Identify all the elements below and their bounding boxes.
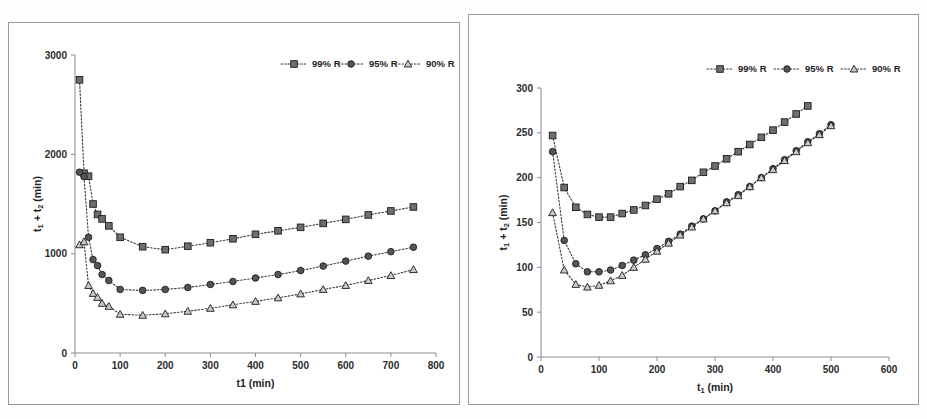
circle-marker <box>320 263 327 270</box>
legend-sample <box>774 66 800 73</box>
legend-sample <box>338 61 364 68</box>
square-marker <box>573 204 580 211</box>
y-tick-label: 50 <box>522 307 534 318</box>
y-tick-label: 150 <box>516 217 533 228</box>
square-marker <box>99 216 106 223</box>
square-marker <box>162 246 169 253</box>
x-tick-label: 100 <box>112 360 129 371</box>
square-marker <box>689 177 696 184</box>
x-tick-label: 200 <box>649 364 666 375</box>
square-marker <box>207 239 214 246</box>
square-marker <box>770 127 777 134</box>
series-line <box>553 106 808 217</box>
square-marker <box>607 214 614 221</box>
y-axis-title: t1 + t2 (min) <box>31 176 45 232</box>
square-marker <box>90 201 97 208</box>
circle-marker <box>275 271 282 278</box>
triangle-marker <box>549 209 557 216</box>
square-marker <box>297 224 304 231</box>
circle-marker <box>99 271 106 278</box>
square-marker <box>631 207 638 214</box>
x-tick-label: 600 <box>337 360 354 371</box>
square-marker <box>388 208 395 215</box>
y-axis-title: t1 + t2 (min) <box>497 195 511 251</box>
circle-marker <box>584 269 591 276</box>
y-tick-label: 300 <box>516 83 533 94</box>
x-tick-label: 300 <box>202 360 219 371</box>
x-tick-label: 0 <box>72 360 78 371</box>
triangle-marker <box>630 264 638 271</box>
square-marker <box>365 212 372 219</box>
legend-sample <box>395 60 421 67</box>
series-line <box>553 125 831 272</box>
legend: 99% R95% R90% R <box>281 58 455 69</box>
circle-marker <box>117 286 124 293</box>
series-line <box>80 80 414 250</box>
left-chart-panel: 01002003004005006007008000100020003000t1… <box>8 22 460 405</box>
legend-label: 95% R <box>805 63 834 74</box>
x-tick-label: 400 <box>247 360 264 371</box>
circle-marker <box>90 256 97 263</box>
x-tick-label: 400 <box>765 364 782 375</box>
circle-marker <box>207 281 214 288</box>
square-marker <box>252 231 259 238</box>
square-marker <box>712 163 719 170</box>
square-marker <box>642 202 649 209</box>
square-marker <box>747 141 754 148</box>
x-tick-label: 500 <box>292 360 309 371</box>
circle-marker <box>619 262 626 269</box>
square-marker <box>185 243 192 250</box>
series-line <box>80 172 414 290</box>
triangle-marker <box>607 277 615 284</box>
circle-marker <box>784 66 791 73</box>
y-tick-label: 250 <box>516 127 533 138</box>
triangle-marker <box>560 266 568 273</box>
x-tick-label: 200 <box>157 360 174 371</box>
legend-label: 99% R <box>312 58 341 69</box>
right-chart-panel: 0100200300400500600050100150200250300t1 … <box>468 14 919 405</box>
triangle-marker <box>595 281 603 288</box>
circle-marker <box>410 244 417 251</box>
figure-root: 01002003004005006007008000100020003000t1… <box>0 0 927 419</box>
square-marker <box>677 183 684 190</box>
x-tick-label: 600 <box>881 364 898 375</box>
square-marker <box>275 228 282 235</box>
square-marker <box>735 148 742 155</box>
square-marker <box>805 103 812 110</box>
square-marker <box>654 196 661 203</box>
square-marker <box>549 132 556 139</box>
circle-marker <box>185 284 192 291</box>
circle-marker <box>94 262 101 269</box>
y-tick-label: 2000 <box>45 149 68 160</box>
square-marker <box>758 134 765 141</box>
x-tick-label: 700 <box>383 360 400 371</box>
y-tick-label: 100 <box>516 262 533 273</box>
circle-marker <box>139 287 146 294</box>
x-tick-label: 100 <box>591 364 608 375</box>
square-marker <box>781 119 788 126</box>
series-90r <box>549 122 835 290</box>
series-line <box>80 242 414 316</box>
circle-marker <box>230 278 237 285</box>
triangle-marker <box>618 272 626 279</box>
legend-label: 90% R <box>426 58 455 69</box>
axes: 0100200300400500600050100150200250300 <box>516 83 897 375</box>
circle-marker <box>631 257 638 264</box>
triangle-marker <box>85 282 93 289</box>
triangle-marker <box>184 307 192 314</box>
circle-marker <box>342 258 349 265</box>
x-tick-label: 300 <box>707 364 724 375</box>
circle-marker <box>252 275 259 282</box>
x-tick-label: 800 <box>428 360 445 371</box>
legend-label: 90% R <box>872 63 901 74</box>
circle-marker <box>573 260 580 267</box>
x-tick-label: 0 <box>538 364 544 375</box>
series-95r <box>76 169 417 294</box>
square-marker <box>117 234 124 241</box>
circle-marker <box>85 234 92 241</box>
square-marker <box>793 111 800 118</box>
square-marker <box>584 211 591 218</box>
legend-sample <box>841 65 867 72</box>
circle-marker <box>365 253 372 260</box>
square-marker <box>106 223 113 230</box>
